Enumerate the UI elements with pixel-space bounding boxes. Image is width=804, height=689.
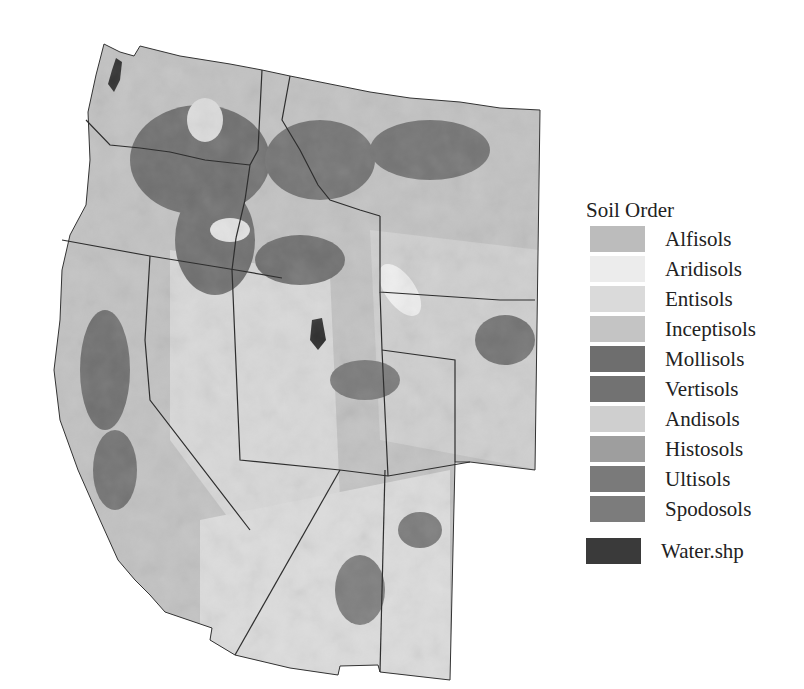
legend-label: Andisols <box>665 406 740 432</box>
swatch-aridisols <box>590 256 645 282</box>
swatch-histosols <box>590 436 645 462</box>
legend-label: Mollisols <box>665 346 744 372</box>
legend-title: Soil Order <box>586 198 756 222</box>
legend-label: Water.shp <box>661 538 744 564</box>
swatch-water <box>586 538 641 564</box>
swatch-spodosols <box>590 496 645 522</box>
legend-item-ultisols: Ultisols <box>586 464 756 494</box>
legend-label: Alfisols <box>665 226 732 252</box>
legend-label: Entisols <box>665 286 733 312</box>
legend-item-entisols: Entisols <box>586 284 756 314</box>
swatch-entisols <box>590 286 645 312</box>
legend: Soil Order Alfisols Aridisols Entisols I… <box>586 198 756 566</box>
legend-label: Histosols <box>665 436 743 462</box>
legend-item-alfisols: Alfisols <box>586 224 756 254</box>
legend-item-aridisols: Aridisols <box>586 254 756 284</box>
swatch-mollisols <box>590 346 645 372</box>
swatch-ultisols <box>590 466 645 492</box>
legend-item-histosols: Histosols <box>586 434 756 464</box>
swatch-alfisols <box>590 226 645 252</box>
swatch-vertisols <box>590 376 645 402</box>
legend-item-inceptisols: Inceptisols <box>586 314 756 344</box>
legend-item-water: Water.shp <box>586 536 756 566</box>
swatch-andisols <box>590 406 645 432</box>
legend-item-mollisols: Mollisols <box>586 344 756 374</box>
legend-item-spodosols: Spodosols <box>586 494 756 524</box>
legend-label: Spodosols <box>665 496 751 522</box>
legend-label: Vertisols <box>665 376 739 402</box>
legend-label: Ultisols <box>665 466 730 492</box>
legend-item-andisols: Andisols <box>586 404 756 434</box>
legend-item-vertisols: Vertisols <box>586 374 756 404</box>
legend-label: Inceptisols <box>665 316 756 342</box>
legend-label: Aridisols <box>665 256 742 282</box>
swatch-inceptisols <box>590 316 645 342</box>
